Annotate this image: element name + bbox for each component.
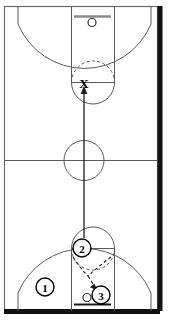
offense-2-marker[interactable]: 2 (73, 239, 91, 257)
defense-x-marker[interactable]: X (79, 76, 89, 91)
movement-lines-group (73, 86, 111, 291)
screen-right-branch-line (88, 257, 111, 276)
court-outline (5, 7, 158, 311)
offense-1-label: 1 (42, 282, 48, 294)
offense-3-marker[interactable]: 3 (92, 286, 110, 304)
court-boundary-group (4, 6, 160, 312)
offense-3-label: 3 (98, 290, 104, 302)
top-hoop-icon (88, 19, 96, 27)
defense-x-label: X (79, 76, 89, 91)
bottom-hoop-icon (83, 294, 91, 302)
bottom-three-point-arc (18, 249, 151, 311)
offense-1-marker[interactable]: 1 (36, 278, 54, 296)
basketball-play-diagram: 1 2 3 X (0, 0, 175, 323)
top-free-throw-circle-solid (72, 83, 115, 105)
court-canvas: 1 2 3 X (0, 0, 175, 323)
halfcourt-group (5, 141, 158, 181)
offense-2-label: 2 (79, 243, 85, 255)
